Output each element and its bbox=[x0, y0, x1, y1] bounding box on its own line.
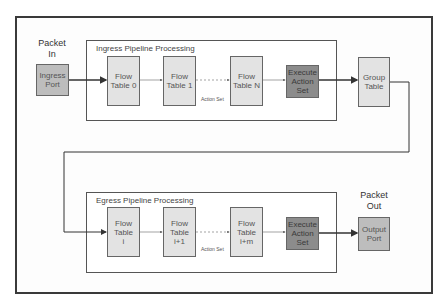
connector-arrows bbox=[0, 0, 446, 307]
